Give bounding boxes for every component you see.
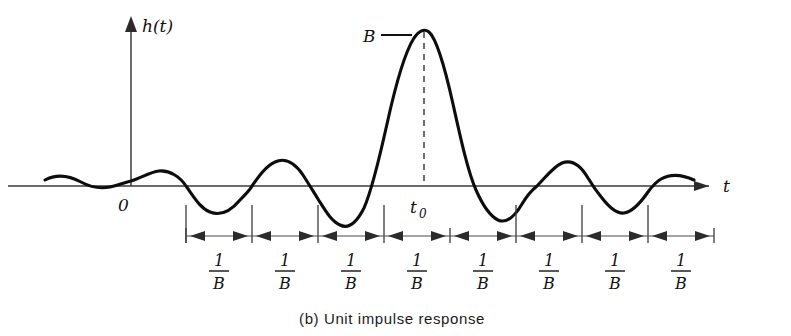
dim-arrow-left (497, 231, 512, 241)
impulse-response-figure: h(t) t 0 B t 0 (0, 0, 791, 336)
interval-numerator: 1 (280, 251, 290, 270)
peak-amplitude-label: B (362, 26, 376, 46)
interval-label: 1 B (209, 251, 229, 293)
dim-arrow-left (431, 231, 446, 241)
impulse-response-curve (45, 30, 694, 226)
peak-time-label-subscript: 0 (419, 207, 427, 221)
t-axis-label: t (723, 176, 730, 196)
interval-denominator: B (212, 274, 225, 293)
t-axis-arrowhead (694, 181, 709, 191)
dim-arrow-right (454, 231, 469, 241)
interval-numerator: 1 (544, 251, 554, 270)
interval-numerator: 1 (346, 251, 356, 270)
h-axis (125, 16, 137, 186)
dim-arrow-right (388, 231, 403, 241)
h-axis-arrowhead (125, 16, 137, 32)
interval-denominator: B (476, 274, 489, 293)
interval-label: 1 B (341, 251, 361, 293)
figure-canvas: h(t) t 0 B t 0 (0, 0, 791, 336)
interval-denominator: B (344, 274, 357, 293)
dim-arrow-left (695, 231, 710, 241)
interval-denominator: B (608, 274, 621, 293)
dim-arrow-left (563, 231, 578, 241)
interval-label: 1 B (407, 251, 427, 293)
dim-arrow-left (629, 231, 644, 241)
peak-amplitude-annotation: B (362, 26, 412, 46)
dim-arrow-left (233, 231, 248, 241)
dim-arrow-left (299, 231, 314, 241)
dim-arrow-right (520, 231, 535, 241)
h-axis-label: h(t) (142, 16, 173, 36)
dim-arrow-right (586, 231, 601, 241)
origin-label: 0 (118, 195, 129, 215)
interval-denominator: B (278, 274, 291, 293)
interval-numerator: 1 (610, 251, 620, 270)
dim-arrow-right (190, 231, 205, 241)
peak-time-annotation: t 0 (410, 197, 427, 221)
interval-label: 1 B (275, 251, 295, 293)
interval-numerator: 1 (478, 251, 488, 270)
interval-denominator: B (410, 274, 423, 293)
interval-numerator: 1 (214, 251, 224, 270)
interval-denominator: B (542, 274, 555, 293)
interval-numerator: 1 (676, 251, 686, 270)
interval-label: 1 B (671, 251, 691, 293)
peak-time-label: t (410, 197, 417, 217)
interval-numerator: 1 (412, 251, 422, 270)
dim-arrow-left (365, 231, 380, 241)
dim-arrow-right (322, 231, 337, 241)
figure-caption: (b) Unit impulse response (299, 310, 485, 327)
dim-arrow-right (256, 231, 271, 241)
interval-denominator: B (674, 274, 687, 293)
dim-arrow-right (652, 231, 667, 241)
dimension-tick-marks (186, 205, 648, 243)
interval-label: 1 B (605, 251, 625, 293)
interval-label: 1 B (473, 251, 493, 293)
interval-label: 1 B (539, 251, 559, 293)
